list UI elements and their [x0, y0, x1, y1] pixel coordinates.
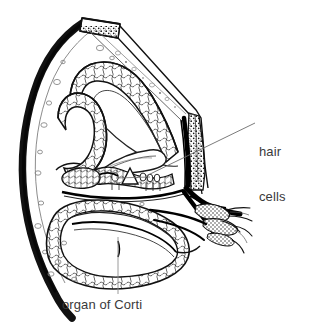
label-organ-of-corti: organ of Corti — [62, 297, 142, 312]
label-hair-cells: hair cells — [259, 114, 286, 234]
cochlea-figure: hair cells organ of Corti — [0, 0, 313, 331]
label-hair-cells-line1: hair — [259, 144, 286, 159]
label-hair-cells-line2: cells — [259, 189, 286, 204]
